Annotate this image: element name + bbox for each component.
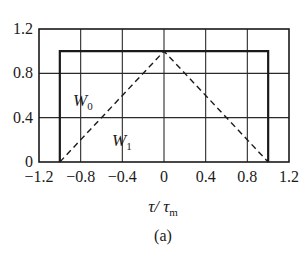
- x-tick-label: −0.8: [66, 168, 95, 185]
- series-label-w1: W1: [112, 131, 132, 152]
- x-tick-label: 0.8: [237, 168, 257, 185]
- x-tick-label: 1.2: [279, 168, 299, 185]
- y-tick-label: 1.2: [13, 20, 33, 37]
- y-tick-label: 0.8: [13, 64, 33, 81]
- y-tick-label: 0.4: [13, 109, 33, 126]
- x-tick-labels: −1.2−0.8−0.400.40.81.2: [24, 168, 299, 185]
- y-tick-labels: 00.40.81.2: [13, 20, 33, 170]
- figure-caption: (a): [154, 227, 172, 245]
- x-tick-label: −1.2: [24, 168, 53, 185]
- x-tick-label: −0.4: [108, 168, 137, 185]
- series-label-w0: W0: [73, 91, 93, 112]
- chart: 00.40.81.2 −1.2−0.8−0.400.40.81.2 W0 W1 …: [0, 0, 307, 254]
- x-tick-label: 0.4: [196, 168, 216, 185]
- x-axis-label: τ/ τm: [148, 197, 178, 218]
- x-tick-label: 0: [160, 168, 168, 185]
